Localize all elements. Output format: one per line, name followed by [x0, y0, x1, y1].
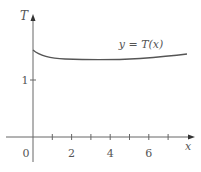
x-tick-label-2: 2: [68, 147, 75, 160]
x-tick-label-6: 6: [145, 147, 152, 160]
y-tick-label-1: 1: [22, 74, 29, 87]
x-tick-label-4: 4: [107, 147, 114, 160]
y-axis-label: T: [20, 9, 29, 23]
chart: 0 2 4 6 x 1 T y = T(x): [0, 0, 201, 172]
x-axis-label: x: [185, 140, 192, 153]
x-axis-arrow-icon: [188, 135, 195, 140]
origin-label: 0: [23, 147, 30, 160]
y-axis-arrow-icon: [31, 14, 36, 21]
curve-T: [33, 50, 187, 60]
curve-label: y = T(x): [118, 38, 164, 51]
